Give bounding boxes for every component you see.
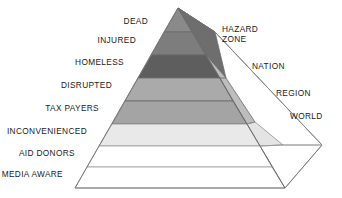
scope-label-hazard-zone: HAZARD ZONE (222, 25, 258, 44)
front-label-media-aware: MEDIA AWARE (2, 170, 63, 180)
scope-label-region: REGION (276, 89, 311, 99)
front-label-tax-payers: TAX PAYERS (45, 104, 99, 114)
scope-label-nation: NATION (252, 62, 285, 72)
scope-label-hazard-zone-line2: ZONE (222, 35, 258, 45)
front-band-disrupted (125, 78, 233, 101)
front-label-inconvenienced: INCONVENIENCED (7, 127, 87, 137)
front-label-homeless: HOMELESS (75, 58, 124, 68)
front-label-disrupted: DISRUPTED (61, 81, 112, 91)
front-label-injured: INJURED (98, 36, 136, 46)
front-label-dead: DEAD (124, 17, 148, 27)
front-band-inconvenienced (99, 124, 260, 146)
scope-label-world: WORLD (290, 112, 323, 122)
front-band-tax-payers (112, 101, 247, 124)
front-band-media-aware (75, 167, 285, 188)
pyramid-diagram: DEAD INJURED HOMELESS DISRUPTED TAX PAYE… (0, 0, 342, 198)
front-label-aid-donors: AID DONORS (19, 149, 75, 159)
front-band-aid-donors (87, 146, 272, 167)
